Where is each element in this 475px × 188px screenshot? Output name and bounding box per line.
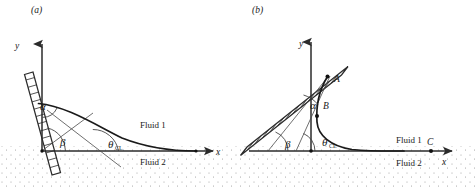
- point-c-marker: [429, 149, 433, 153]
- point-a-label: A: [333, 74, 340, 84]
- panel-b-label: (b): [252, 5, 263, 16]
- interface-end-point-a: [194, 149, 197, 152]
- origin-point-b: [309, 149, 313, 153]
- interface-curve-b: [317, 77, 404, 152]
- y-axis-label-b: y: [298, 39, 304, 49]
- x-axis-label-b: x: [441, 157, 447, 167]
- alpha-label-a: α: [40, 100, 46, 112]
- fluid-2-stipple-region-b: [238, 146, 475, 188]
- beta-label-a: β: [59, 136, 66, 148]
- point-a-marker: [326, 75, 330, 79]
- svg-text:θ: θ: [322, 136, 328, 148]
- panel-b: [238, 42, 475, 188]
- y-axis-label-a: y: [14, 41, 20, 51]
- svg-text:CL: CL: [115, 145, 123, 151]
- beta-label-b: β: [284, 138, 291, 150]
- fluid-2-label-b: Fluid 2: [396, 158, 422, 168]
- figure-root: (a) y x α β θ CL Fluid 1 Fluid 2 (b) y x…: [0, 0, 475, 188]
- svg-text:θ: θ: [108, 138, 114, 150]
- fluid-2-stipple-region-a: [0, 146, 238, 188]
- theta-cl-label-a: θ CL: [108, 138, 123, 151]
- fluid-interface-figure: (a) y x α β θ CL Fluid 1 Fluid 2 (b) y x…: [0, 0, 475, 188]
- point-b-label: B: [323, 101, 329, 111]
- alpha-label-b: α: [310, 99, 316, 111]
- fluid-1-label-a: Fluid 1: [140, 120, 166, 130]
- theta-cl-label-b: θ CL: [322, 136, 337, 149]
- fluid-2-label-a: Fluid 2: [140, 157, 166, 167]
- point-c-label: C: [427, 137, 434, 147]
- panel-a: [0, 44, 238, 188]
- panel-a-label: (a): [31, 5, 42, 16]
- svg-text:CL: CL: [329, 143, 337, 149]
- point-b-marker: [315, 114, 319, 118]
- fluid-1-label-b: Fluid 1: [396, 135, 422, 145]
- x-axis-label-a: x: [215, 147, 221, 157]
- origin-point-a: [40, 149, 43, 152]
